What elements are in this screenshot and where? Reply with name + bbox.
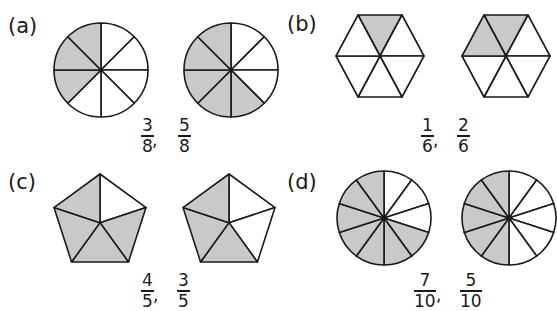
fraction-a2: 58 — [178, 117, 191, 155]
fraction-c1: 45 — [141, 272, 154, 310]
fraction-d1: 710 — [414, 272, 436, 310]
fraction-b1: 16 — [421, 117, 434, 155]
fraction-b2: 26 — [457, 117, 470, 155]
fraction-d2: 510 — [460, 272, 482, 310]
fraction-separator: , — [152, 130, 157, 150]
fraction-separator: , — [433, 130, 438, 150]
problem-d-label: (d) — [287, 172, 317, 193]
fraction-c2: 35 — [177, 272, 190, 310]
circle-eighths-figure-2 — [183, 22, 279, 118]
circle-tenths-figure-2 — [461, 170, 557, 266]
problem-a-label: (a) — [8, 16, 37, 37]
pentagon-fifths-figure-1 — [53, 173, 147, 263]
problem-c-label: (c) — [8, 172, 36, 193]
fraction-separator: , — [153, 285, 158, 305]
pentagon-fifths-figure-2 — [182, 173, 276, 263]
hexagon-sixths-figure-1 — [335, 14, 425, 98]
circle-tenths-figure-1 — [336, 170, 432, 266]
fraction-separator: , — [436, 285, 441, 305]
circle-eighths-figure-1 — [53, 22, 149, 118]
problem-b-label: (b) — [287, 14, 317, 35]
hexagon-sixths-figure-2 — [461, 14, 551, 98]
